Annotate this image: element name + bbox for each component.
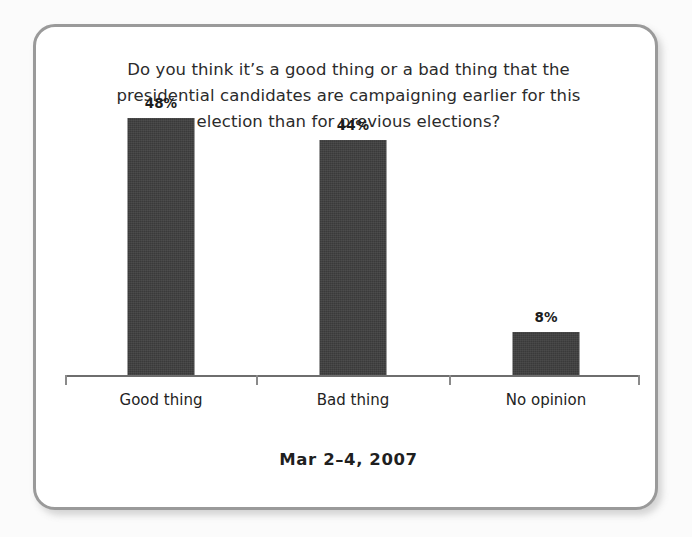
x-axis-tick-start <box>65 375 67 385</box>
bar-value-no-opinion: 8% <box>535 309 558 325</box>
x-axis-category-labels: Good thing Bad thing No opinion <box>65 391 642 419</box>
bar-good-thing <box>128 118 195 375</box>
bar-column-good-thing: 48% <box>65 97 257 375</box>
x-axis-tick-divider-1 <box>256 375 258 385</box>
bar-value-good-thing: 48% <box>145 95 177 111</box>
category-label-bad-thing: Bad thing <box>257 391 449 409</box>
bar-no-opinion <box>513 332 580 375</box>
survey-date-label: Mar 2–4, 2007 <box>36 450 661 469</box>
category-label-no-opinion: No opinion <box>450 391 642 409</box>
bar-column-bad-thing: 44% <box>257 97 449 375</box>
x-axis-tick-divider-2 <box>449 375 451 385</box>
bar-series: 48% 44% 8% <box>65 97 642 375</box>
bar-chart-plot: 48% 44% 8% Good thing Bad thing No opini… <box>36 27 661 513</box>
x-axis-tick-end <box>638 375 640 385</box>
x-axis-line <box>65 375 640 377</box>
bar-value-bad-thing: 44% <box>337 117 369 133</box>
bar-bad-thing <box>320 140 387 375</box>
category-label-good-thing: Good thing <box>65 391 257 409</box>
bar-column-no-opinion: 8% <box>450 97 642 375</box>
chart-card: Do you think it’s a good thing or a bad … <box>33 24 658 510</box>
